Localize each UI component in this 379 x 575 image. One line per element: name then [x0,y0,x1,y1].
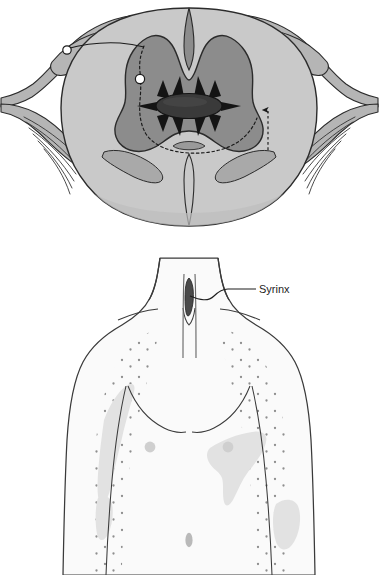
syrinx-label: Syrinx [259,283,290,295]
dorsal-root-ganglion-cell-body [63,46,71,54]
figure-canvas: Syrinx [0,0,379,575]
nipple-left [145,442,156,453]
nipple-right [223,442,234,453]
syrinx-cavity-highlight [163,97,207,107]
second-order-neuron-cell-body [135,74,144,83]
umbilicus [185,533,192,547]
syringomyelia-figure: Syrinx [0,0,379,575]
